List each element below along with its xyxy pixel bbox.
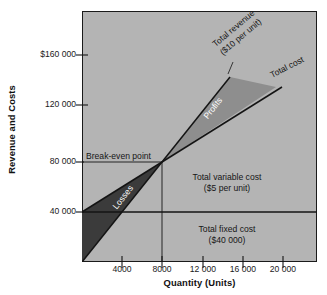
total-cost-line bbox=[82, 87, 282, 212]
xtick-label-20000: 20 000 bbox=[257, 264, 309, 274]
total-fixed-cost-label: Total fixed cost ($40 000) bbox=[168, 224, 286, 245]
x-axis-title: Quantity (Units) bbox=[82, 277, 317, 288]
chart-graphics bbox=[0, 0, 327, 295]
total-fixed-cost-line1: Total fixed cost bbox=[199, 224, 256, 234]
total-revenue-leader bbox=[228, 62, 233, 74]
break-even-chart: $160 000 120 000 80 000 40 000 4000 8000… bbox=[0, 0, 327, 295]
total-variable-cost-line1: Total variable cost bbox=[193, 172, 262, 182]
total-variable-cost-line2: ($5 per unit) bbox=[168, 183, 286, 194]
total-fixed-cost-line2: ($40 000) bbox=[168, 235, 286, 246]
total-variable-cost-label: Total variable cost ($5 per unit) bbox=[168, 172, 286, 193]
ytick-label-40000: 40 000 bbox=[4, 207, 76, 216]
break-even-point-label: Break-even point bbox=[86, 151, 164, 162]
y-axis-title: Revenue and Costs bbox=[6, 70, 17, 190]
ytick-label-160000: $160 000 bbox=[4, 50, 76, 59]
